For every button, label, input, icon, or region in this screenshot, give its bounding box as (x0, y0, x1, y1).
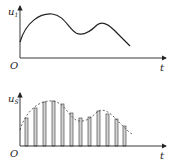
x-axis-label: t (160, 62, 165, 73)
origin-label: O (10, 60, 18, 71)
sampling-diagram: u1 O t uS O t (0, 0, 174, 167)
y-axis-label: u1 (8, 6, 18, 18)
continuous-signal-plot: u1 O t (8, 6, 166, 73)
sample-bars (25, 101, 126, 146)
signal-curve (20, 14, 130, 46)
x-axis-label: t (160, 150, 165, 161)
sampled-signal-plot: uS O t (8, 93, 166, 161)
origin-label: O (10, 148, 18, 159)
y-axis-label: uS (8, 93, 19, 105)
